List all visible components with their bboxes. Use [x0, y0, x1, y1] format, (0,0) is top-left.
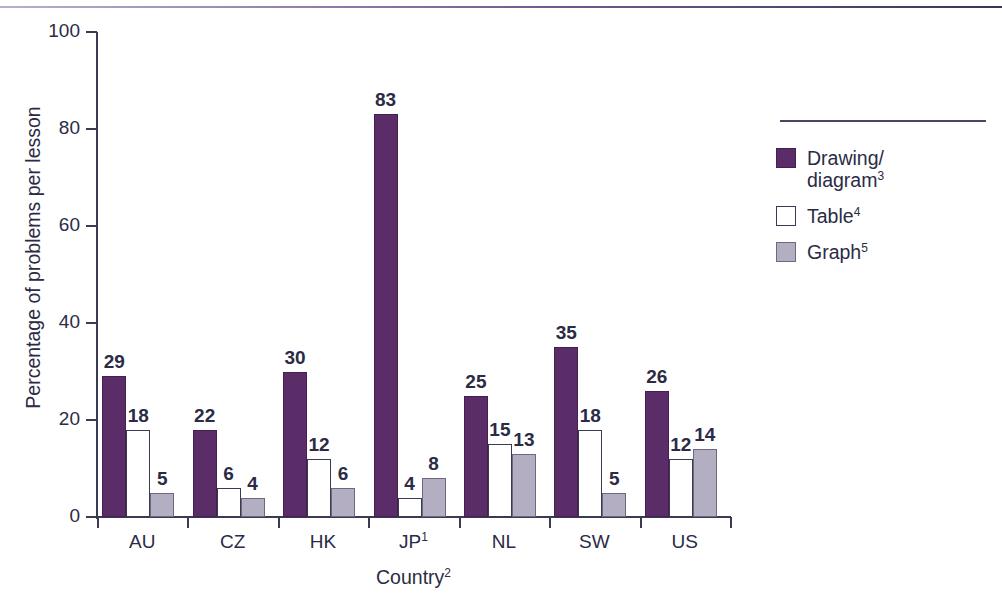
bar-jp-series1: [398, 498, 422, 517]
x-axis-title: Country2: [97, 566, 730, 589]
x-axis-label-sw: SW: [549, 531, 639, 553]
bar-value-label: 5: [143, 468, 181, 490]
legend-swatch-icon: [776, 148, 796, 168]
bar-value-label: 30: [276, 347, 314, 369]
bar-nl-series0: [464, 396, 488, 517]
x-axis-label-au: AU: [97, 531, 187, 553]
bar-value-label: 4: [234, 473, 272, 495]
bar-value-label: 12: [300, 434, 338, 456]
legend-item-label: Table4: [807, 206, 860, 228]
x-axis-tick: [97, 517, 99, 528]
bar-value-label: 5: [595, 468, 633, 490]
x-axis-tick: [368, 517, 370, 528]
bar-value-label: 18: [571, 405, 609, 427]
bar-value-label: 6: [324, 463, 362, 485]
bar-value-label: 18: [119, 405, 157, 427]
bar-jp-series2: [422, 478, 446, 517]
x-axis-tick: [730, 517, 732, 528]
bar-us-series2: [693, 449, 717, 517]
bar-hk-series2: [331, 488, 355, 517]
top-divider-rule: [0, 6, 1002, 8]
chart-figure: 020406080100 AUCZHKJP1NLSWUS 29185226430…: [0, 0, 1002, 603]
legend-item-drawing[interactable]: Drawing/diagram3: [776, 148, 884, 192]
x-axis-tick: [549, 517, 551, 528]
x-axis-label-nl: NL: [459, 531, 549, 553]
x-axis-tick: [187, 517, 189, 528]
y-axis-tick: [86, 419, 97, 421]
bar-jp-series0: [374, 114, 398, 517]
x-axis-tick: [278, 517, 280, 528]
y-axis-tick: [86, 516, 97, 518]
legend-swatch-icon: [776, 242, 796, 262]
x-axis-label-hk: HK: [278, 531, 368, 553]
x-axis-label-jp: JP1: [368, 531, 458, 553]
bar-value-label: 35: [547, 322, 585, 344]
bar-nl-series1: [488, 444, 512, 517]
bar-sw-series0: [554, 347, 578, 517]
y-axis-tick: [86, 128, 97, 130]
legend-divider-rule: [780, 120, 986, 122]
bar-au-series0: [102, 376, 126, 517]
y-axis-tick: [86, 225, 97, 227]
bar-sw-series2: [602, 493, 626, 517]
bar-value-label: 8: [415, 453, 453, 475]
bar-us-series1: [669, 459, 693, 517]
y-axis-title: Percentage of problems per lesson: [22, 43, 45, 473]
bar-cz-series2: [241, 498, 265, 517]
bar-value-label: 14: [686, 424, 724, 446]
bar-value-label: 29: [95, 351, 133, 373]
x-axis-label-cz: CZ: [187, 531, 277, 553]
bar-value-label: 26: [638, 366, 676, 388]
bar-value-label: 83: [367, 89, 405, 111]
legend-item-graph[interactable]: Graph5: [776, 242, 868, 264]
legend-item-table[interactable]: Table4: [776, 206, 860, 228]
bar-au-series2: [150, 493, 174, 517]
y-axis-tick-label: 100: [0, 21, 80, 40]
bars-layer: 29185226430126834825151335185261214: [97, 32, 730, 517]
legend-item-label: Graph5: [807, 242, 868, 264]
bar-nl-series2: [512, 454, 536, 517]
bar-value-label: 25: [457, 371, 495, 393]
x-axis-tick: [459, 517, 461, 528]
legend-swatch-icon: [776, 206, 796, 226]
y-axis-tick: [86, 322, 97, 324]
x-axis-tick: [640, 517, 642, 528]
x-axis-label-us: US: [640, 531, 730, 553]
bar-value-label: 13: [505, 429, 543, 451]
y-axis-tick-label: 0: [0, 506, 80, 525]
y-axis-tick: [86, 31, 97, 33]
legend-item-label: Drawing/diagram3: [807, 148, 884, 192]
bar-value-label: 22: [186, 405, 224, 427]
